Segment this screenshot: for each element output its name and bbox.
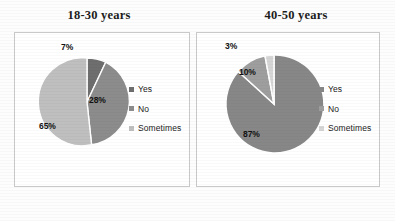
legend-right: Yes No Sometimes — [319, 85, 371, 133]
legend-item-yes[interactable]: Yes — [319, 85, 371, 94]
legend-item-sometimes[interactable]: Sometimes — [319, 124, 371, 133]
legend-swatch-no-icon — [129, 106, 134, 111]
legend-swatch-sometimes-icon — [319, 126, 324, 131]
legend-left: Yes No Sometimes — [129, 85, 181, 133]
pie-label-left-no: 28% — [89, 95, 106, 105]
pie-label-right-yes: 87% — [243, 129, 260, 139]
legend-swatch-yes-icon — [319, 87, 324, 92]
pie-label-left-sometimes: 65% — [39, 121, 56, 131]
pie-label-right-no: 10% — [239, 67, 256, 77]
legend-label-sometimes: Sometimes — [138, 124, 181, 133]
legend-label-no: No — [328, 105, 339, 114]
legend-label-yes: Yes — [328, 85, 342, 94]
legend-item-no[interactable]: No — [129, 105, 181, 114]
pie-label-right-sometimes: 3% — [225, 41, 237, 51]
legend-item-no[interactable]: No — [319, 105, 371, 114]
chart-panel-left: 7% 28% 65% Yes No Sometimes — [14, 32, 190, 187]
chart-title-left: 18-30 years — [0, 8, 198, 23]
legend-swatch-no-icon — [319, 106, 324, 111]
legend-item-sometimes[interactable]: Sometimes — [129, 124, 181, 133]
legend-label-sometimes: Sometimes — [328, 124, 371, 133]
legend-label-yes: Yes — [138, 85, 152, 94]
figure-canvas: 18-30 years 7% 28% 65% Yes No — [0, 0, 395, 221]
legend-item-yes[interactable]: Yes — [129, 85, 181, 94]
pie-chart-18-30 — [43, 58, 131, 146]
chart-title-right: 40-50 years — [197, 8, 395, 23]
chart-panel-right: 87% 10% 3% Yes No Sometimes — [196, 32, 380, 187]
pie-slice-left-sometimes — [38, 58, 91, 146]
legend-swatch-yes-icon — [129, 87, 134, 92]
legend-swatch-sometimes-icon — [129, 126, 134, 131]
legend-label-no: No — [138, 105, 149, 114]
pie-label-left-yes: 7% — [61, 42, 73, 52]
pie-slices-left — [43, 58, 131, 146]
